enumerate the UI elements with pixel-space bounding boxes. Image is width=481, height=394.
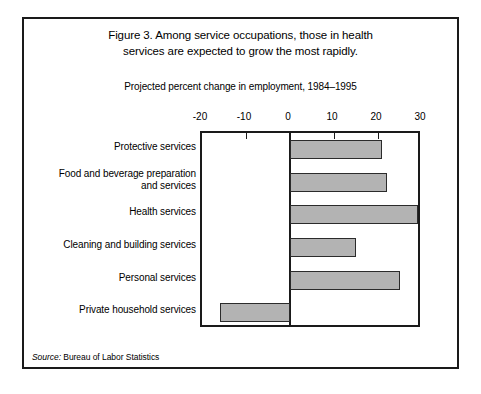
bar xyxy=(290,238,356,257)
bar xyxy=(290,205,418,224)
x-tick-label: -20 xyxy=(193,111,207,122)
category-label: Health services xyxy=(34,206,196,219)
chart-area: -20-100102030 Protective servicesFood an… xyxy=(24,19,457,367)
category-label-line: Food and beverage preparation xyxy=(34,168,196,181)
bar xyxy=(290,271,400,290)
category-label: Personal services xyxy=(34,272,196,285)
x-tick-mark xyxy=(378,133,379,139)
plot-area xyxy=(200,131,420,327)
x-tick-mark xyxy=(290,133,291,139)
x-tick-label: -10 xyxy=(237,111,251,122)
category-label: Private household services xyxy=(34,304,196,317)
category-label-line: Personal services xyxy=(34,272,196,285)
x-axis-tick-labels: -20-100102030 xyxy=(24,111,457,125)
category-label-line: Cleaning and building services xyxy=(34,239,196,252)
x-tick-label: 20 xyxy=(370,111,381,122)
category-label-line: and services xyxy=(34,180,196,193)
source-text: Bureau of Labor Statistics xyxy=(61,352,159,362)
x-tick-mark xyxy=(246,133,247,139)
category-label: Protective services xyxy=(34,141,196,154)
x-tick-label: 10 xyxy=(326,111,337,122)
bars-layer xyxy=(202,133,418,325)
source-note: Source: Bureau of Labor Statistics xyxy=(32,352,159,362)
category-label: Food and beverage preparationand service… xyxy=(34,168,196,193)
category-label: Cleaning and building services xyxy=(34,239,196,252)
x-tick-label: 0 xyxy=(285,111,291,122)
x-tick-mark xyxy=(334,133,335,139)
category-label-line: Private household services xyxy=(34,304,196,317)
category-label-line: Health services xyxy=(34,206,196,219)
x-tick-label: 30 xyxy=(414,111,425,122)
bar xyxy=(220,303,290,322)
bar xyxy=(290,140,382,159)
bar xyxy=(290,173,387,192)
source-label: Source: xyxy=(32,352,61,362)
figure-frame: Figure 3. Among service occupations, tho… xyxy=(22,17,459,369)
category-axis-labels: Protective servicesFood and beverage pre… xyxy=(34,131,196,327)
category-label-line: Protective services xyxy=(34,141,196,154)
